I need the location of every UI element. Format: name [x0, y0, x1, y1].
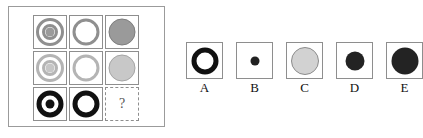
matrix-cell-r2c2[interactable] — [69, 51, 103, 85]
medium-disc-figure — [345, 51, 364, 70]
matrix-cell-r1c2[interactable] — [69, 15, 103, 49]
answer-option-b-label: B — [236, 81, 273, 95]
matrix-cell-r3c1[interactable] — [33, 87, 67, 121]
question-mark-label: ? — [106, 88, 138, 120]
answer-option-a-box[interactable] — [186, 42, 223, 79]
answer-option-e[interactable]: E — [386, 42, 423, 79]
single-ring-figure — [73, 19, 100, 46]
answer-option-a[interactable]: A — [186, 42, 223, 79]
matrix-cell-r1c1[interactable] — [33, 15, 67, 49]
answer-option-a-label: A — [186, 81, 223, 95]
small-disc-figure — [250, 56, 259, 65]
answer-option-c-label: C — [286, 81, 323, 95]
answer-option-c-box[interactable] — [286, 42, 323, 79]
matrix-cell-r3c3-missing[interactable]: ? — [105, 87, 139, 121]
single-ring-figure — [73, 55, 100, 82]
matrix-cell-r2c3[interactable] — [105, 51, 139, 85]
concentric-core-dot — [46, 28, 55, 37]
large-disc-figure — [291, 47, 319, 75]
answer-options-row: A B C D E — [186, 42, 384, 104]
thick-ring-figure — [191, 47, 218, 74]
concentric-core-dot — [46, 100, 55, 109]
matrix-grid: ? — [33, 15, 143, 121]
solid-disc-figure — [109, 55, 136, 82]
answer-option-e-box[interactable] — [386, 42, 423, 79]
answer-option-d-box[interactable] — [336, 42, 373, 79]
answer-option-d[interactable]: D — [336, 42, 373, 79]
answer-option-b-box[interactable] — [236, 42, 273, 79]
solid-disc-figure — [109, 19, 136, 46]
matrix-cell-r3c2[interactable] — [69, 87, 103, 121]
matrix-panel: ? — [8, 6, 165, 127]
answer-option-d-label: D — [336, 81, 373, 95]
large-disc-figure — [391, 47, 418, 74]
matrix-cell-r2c1[interactable] — [33, 51, 67, 85]
single-ring-figure — [73, 91, 100, 118]
answer-option-c[interactable]: C — [286, 42, 323, 79]
concentric-core-dot — [46, 64, 55, 73]
matrix-cell-r1c3[interactable] — [105, 15, 139, 49]
answer-option-b[interactable]: B — [236, 42, 273, 79]
answer-option-e-label: E — [386, 81, 423, 95]
